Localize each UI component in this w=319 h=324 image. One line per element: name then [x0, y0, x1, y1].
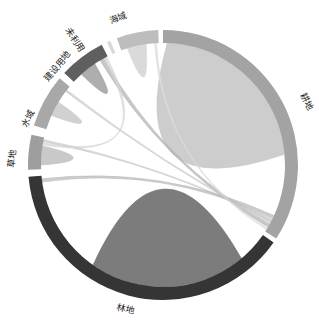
chord-ribbon [127, 44, 146, 77]
label-weiliyong: 未利用 [63, 25, 87, 54]
label-shuiyu: 水域 [19, 108, 36, 129]
label-jianshe: 建设用地 [41, 49, 73, 84]
label-haiyu: 海域 [108, 9, 129, 26]
chord-ribbon [93, 189, 241, 287]
chord-diagram: 耕地 林地 草地 水域 建设用地 未利用 海域 [0, 0, 319, 324]
chord-ribbon [157, 43, 285, 168]
label-caodi: 草地 [5, 149, 18, 168]
chord-ribbon [41, 146, 73, 165]
arc-segment [107, 41, 115, 54]
label-lindi: 林地 [116, 301, 136, 316]
chord-ribbons [41, 43, 285, 287]
arc-segment [34, 78, 70, 129]
label-gengdi: 耕地 [298, 91, 316, 112]
